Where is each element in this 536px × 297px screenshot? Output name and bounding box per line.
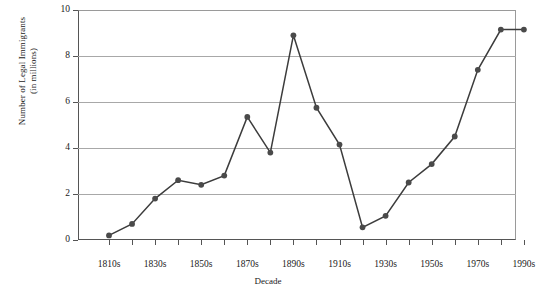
data-point-1880s: [267, 150, 273, 156]
data-point-1950s: [429, 161, 435, 167]
y-tick-label-6: 6: [44, 96, 70, 106]
data-point-1960s: [452, 134, 458, 140]
y-tick-label-0: 0: [44, 234, 70, 244]
x-tick-mark-1940s: [409, 240, 410, 245]
data-point-1890s: [291, 32, 297, 38]
x-tick-label-1850s: 1850s: [178, 259, 224, 269]
x-axis-title: Decade: [0, 276, 536, 286]
plot-area: 0246810 1810s1830s1850s1870s1890s1910s19…: [78, 10, 516, 240]
x-tick-label-1970s: 1970s: [455, 259, 501, 269]
data-point-1900s: [314, 105, 320, 111]
data-point-1970s: [475, 67, 481, 73]
x-tick-mark-1880s: [270, 240, 271, 245]
x-tick-mark-1950s: [432, 240, 433, 245]
data-point-1860s: [221, 173, 227, 179]
data-point-1850s: [198, 182, 204, 188]
data-point-1910s: [337, 142, 343, 148]
x-tick-mark-1870s: [247, 240, 248, 245]
y-tick-label-4: 4: [44, 142, 70, 152]
x-tick-mark-1920s: [363, 240, 364, 245]
data-point-1820s: [129, 221, 135, 227]
data-point-1830s: [152, 196, 158, 202]
y-axis-title-line-1: Number of Legal Immigrants: [17, 0, 28, 161]
x-tick-mark-1930s: [386, 240, 387, 245]
data-point-1920s: [360, 224, 366, 230]
data-point-1810s: [106, 233, 112, 239]
x-tick-label-1810s: 1810s: [86, 259, 132, 269]
x-tick-mark-1820s: [132, 240, 133, 245]
x-tick-mark-1990s: [524, 240, 525, 245]
x-tick-label-1990s: 1990s: [501, 259, 536, 269]
y-tick-label-2: 2: [44, 188, 70, 198]
data-series-line: [78, 10, 516, 240]
data-point-1940s: [406, 180, 412, 186]
x-tick-mark-1810s: [109, 240, 110, 245]
y-tick-label-10: 10: [44, 4, 70, 14]
y-axis-title: Number of Legal Immigrants (in millions): [17, 0, 39, 161]
x-tick-label-1930s: 1930s: [363, 259, 409, 269]
data-point-1870s: [244, 114, 250, 120]
x-tick-mark-1830s: [155, 240, 156, 245]
x-tick-mark-1860s: [224, 240, 225, 245]
y-axis-title-line-2: (in millions): [28, 0, 39, 161]
y-tick-label-8: 8: [44, 50, 70, 60]
series-polyline: [109, 30, 524, 236]
x-tick-label-1910s: 1910s: [317, 259, 363, 269]
data-point-1840s: [175, 177, 181, 183]
x-tick-mark-1980s: [501, 240, 502, 245]
x-tick-mark-1960s: [455, 240, 456, 245]
immigration-line-chart: Number of Legal Immigrants (in millions)…: [0, 0, 536, 297]
x-tick-mark-1900s: [316, 240, 317, 245]
x-tick-mark-1850s: [201, 240, 202, 245]
x-tick-label-1890s: 1890s: [270, 259, 316, 269]
x-tick-mark-1840s: [178, 240, 179, 245]
x-tick-label-1870s: 1870s: [224, 259, 270, 269]
x-tick-mark-1890s: [293, 240, 294, 245]
data-point-1980s: [498, 27, 504, 33]
data-point-1930s: [383, 213, 389, 219]
y-tick-mark-0: [73, 240, 78, 241]
x-tick-label-1830s: 1830s: [132, 259, 178, 269]
x-tick-label-1950s: 1950s: [409, 259, 455, 269]
x-tick-mark-1970s: [478, 240, 479, 245]
x-tick-mark-1910s: [340, 240, 341, 245]
data-point-1990s: [521, 27, 527, 33]
